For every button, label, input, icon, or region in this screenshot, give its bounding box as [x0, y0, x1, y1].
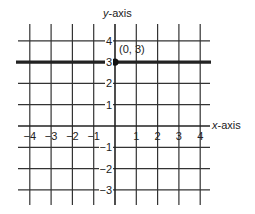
y-tick-label: −2: [99, 163, 112, 175]
x-tick-label: −3: [45, 130, 58, 142]
coordinate-plane: −4−3−2−112344321−1−2−3 y-axis x-axis (0,…: [0, 0, 255, 214]
y-axis-label: y-axis: [102, 7, 132, 19]
y-tick-label: 3: [106, 56, 112, 68]
x-tick-label: −2: [66, 130, 79, 142]
y-tick-label: −3: [99, 184, 112, 196]
x-tick-label: −1: [87, 130, 100, 142]
y-tick-label: 2: [106, 77, 112, 89]
x-tick-label: −4: [24, 130, 37, 142]
y-tick-label: 1: [106, 99, 112, 111]
x-tick-label: 4: [197, 130, 203, 142]
x-tick-label: 3: [176, 130, 182, 142]
axes: [18, 24, 210, 205]
x-tick-label: 1: [133, 130, 139, 142]
y-tick-label: −1: [99, 141, 112, 153]
y-tick-label: 4: [106, 35, 112, 47]
data-series: [16, 59, 211, 66]
grid: [18, 24, 210, 205]
x-axis-label: x-axis: [211, 119, 241, 131]
point-label: (0, 3): [119, 43, 145, 55]
x-tick-label: 2: [155, 130, 161, 142]
